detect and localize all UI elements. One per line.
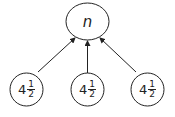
child-node-label-left: 4 1 2	[10, 73, 43, 106]
edge-right-arrow	[100, 38, 136, 72]
root-node-label: n	[66, 3, 109, 40]
whole-number: 4	[139, 82, 147, 97]
denominator: 2	[149, 90, 155, 99]
child-node-label-right: 4 1 2	[131, 73, 164, 106]
edge-left-arrow	[38, 38, 75, 72]
fraction: 1 2	[27, 80, 35, 99]
denominator: 2	[28, 90, 34, 99]
child-node-label-middle: 4 1 2	[71, 73, 104, 106]
fraction: 1 2	[148, 80, 156, 99]
whole-number: 4	[18, 82, 26, 97]
tree-diagram: n 4 1 2 4 1 2 4 1 2	[0, 0, 175, 117]
fraction: 1 2	[88, 80, 96, 99]
whole-number: 4	[79, 82, 87, 97]
denominator: 2	[89, 90, 95, 99]
